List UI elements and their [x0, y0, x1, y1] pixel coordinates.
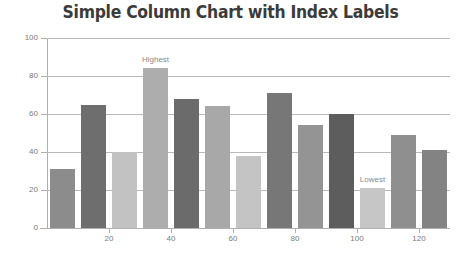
bar[interactable] — [112, 152, 137, 228]
x-axis-tick — [109, 228, 110, 233]
gridline — [47, 76, 450, 77]
y-axis-label: 100 — [0, 33, 38, 42]
bar[interactable] — [143, 68, 168, 228]
bar[interactable] — [174, 99, 199, 228]
bar[interactable] — [267, 93, 292, 228]
x-axis-label: 100 — [342, 234, 372, 243]
x-axis-line — [40, 228, 450, 229]
bar[interactable] — [298, 125, 323, 228]
index-label: Lowest — [343, 175, 403, 184]
bar[interactable] — [81, 105, 106, 229]
x-axis-tick — [233, 228, 234, 233]
plot-area — [47, 38, 450, 228]
y-axis-tick — [41, 228, 47, 229]
y-axis-label: 20 — [0, 185, 38, 194]
y-axis-label: 40 — [0, 147, 38, 156]
x-axis-label: 20 — [94, 234, 124, 243]
x-axis-label: 40 — [156, 234, 186, 243]
x-axis-tick — [171, 228, 172, 233]
gridline — [47, 152, 450, 153]
bar[interactable] — [236, 156, 261, 228]
bar[interactable] — [50, 169, 75, 228]
gridline — [47, 38, 450, 39]
column-chart: Simple Column Chart with Index Labels 02… — [0, 0, 461, 255]
bar[interactable] — [329, 114, 354, 228]
bar[interactable] — [205, 106, 230, 228]
bar[interactable] — [360, 188, 385, 228]
bar[interactable] — [422, 150, 447, 228]
index-label: Highest — [126, 55, 186, 64]
x-axis-label: 80 — [280, 234, 310, 243]
x-axis-label: 60 — [218, 234, 248, 243]
y-axis-label: 60 — [0, 109, 38, 118]
y-axis-label: 0 — [0, 223, 38, 232]
x-axis-tick — [419, 228, 420, 233]
x-axis-tick — [295, 228, 296, 233]
gridline — [47, 114, 450, 115]
y-axis-label: 80 — [0, 71, 38, 80]
x-axis-label: 120 — [404, 234, 434, 243]
chart-title: Simple Column Chart with Index Labels — [18, 2, 442, 22]
x-axis-tick — [357, 228, 358, 233]
